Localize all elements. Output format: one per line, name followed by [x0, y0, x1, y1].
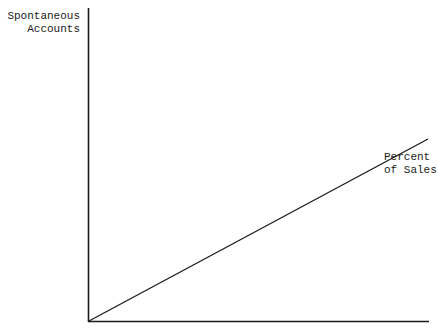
series-label-line-1: Percent [384, 151, 437, 164]
chart-plot [0, 0, 438, 329]
series-label-line-2: of Sales [384, 164, 437, 177]
series-label: Percent of Sales [384, 151, 437, 177]
percent-of-sales-line [89, 139, 428, 321]
